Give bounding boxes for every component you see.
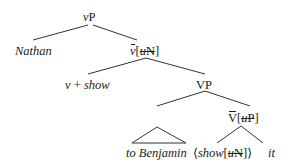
node-it: it bbox=[268, 146, 275, 160]
node-to-benjamin: to Benjamin bbox=[126, 146, 187, 160]
tree-edges bbox=[0, 0, 293, 167]
node-v-bar: v[uN] bbox=[130, 44, 159, 58]
node-show-trace: ⟨show[uN]⟩ bbox=[193, 146, 252, 160]
node-vP: vP bbox=[83, 10, 96, 24]
node-VP: VP bbox=[196, 78, 212, 92]
node-V-bar: V[uP] bbox=[228, 111, 259, 125]
node-v-plus-show: v + show bbox=[65, 78, 110, 92]
node-nathan: Nathan bbox=[15, 44, 52, 58]
